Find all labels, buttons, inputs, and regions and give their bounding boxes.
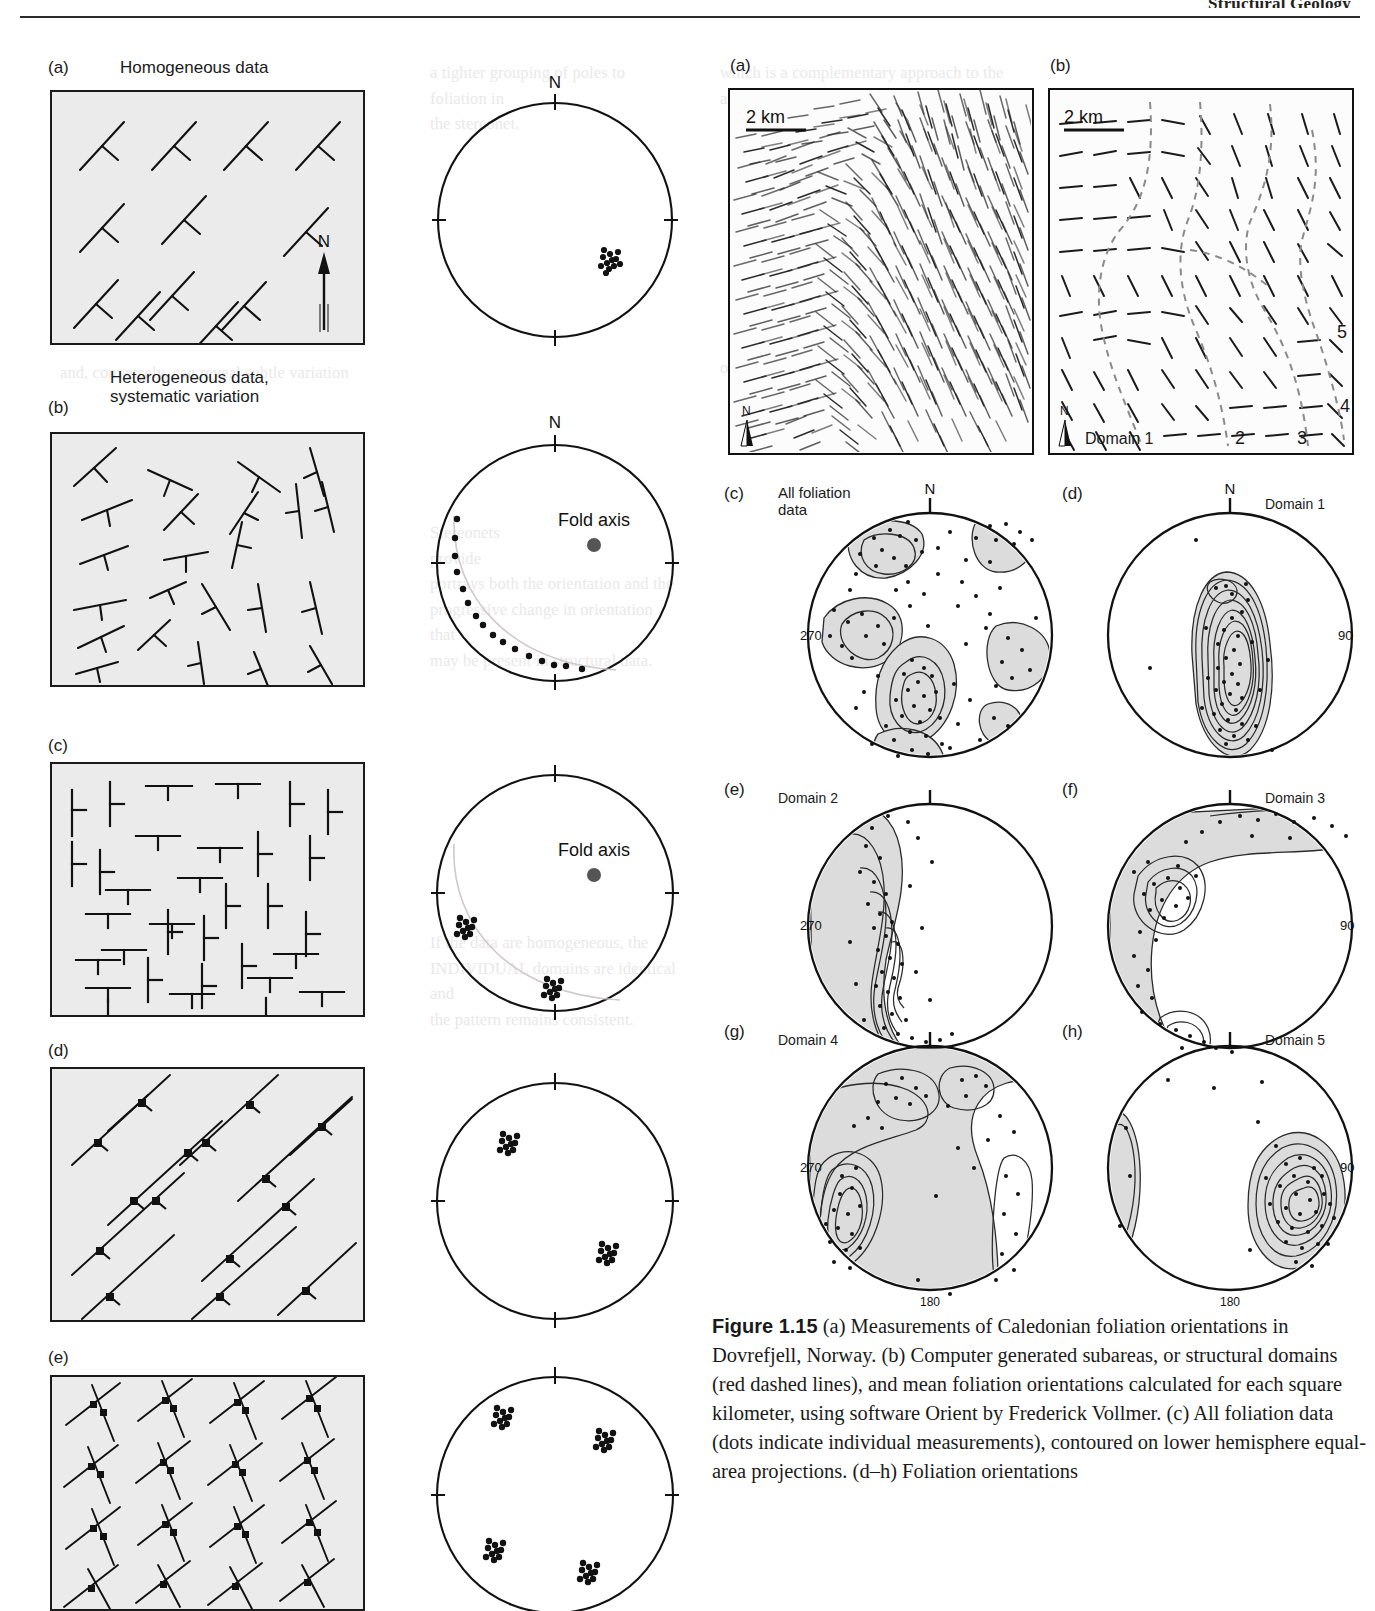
right-stereo-label-f: (f) (1062, 780, 1078, 800)
figure-number: Figure 1.15 (712, 1315, 818, 1337)
stereo-g-west-label: 270 (800, 1160, 822, 1175)
stereonet-b-north: N (549, 413, 561, 432)
pole-girdle-b (452, 516, 585, 672)
caledonian-foliation-map: 2 km N (728, 88, 1034, 455)
running-head: Structural Geology (1208, 0, 1351, 8)
foliation-map-c (50, 762, 365, 1017)
right-stereo-label-h: (h) (1062, 1022, 1083, 1042)
foliation-symbols-e (52, 1377, 363, 1609)
stereo-d-north: N (1225, 480, 1236, 497)
left-panel-label-d: (d) (48, 1041, 69, 1061)
north-arrow-map-a: N (741, 404, 753, 446)
svg-text:2 km: 2 km (746, 107, 785, 127)
pole-cluster-e-4 (577, 1560, 600, 1585)
left-panel-title-b: Heterogeneous data, systematic variation (110, 368, 269, 406)
stereo-h-east-label: 90 (1340, 1160, 1354, 1175)
map-a-foliation-ticks: 2 km N (730, 90, 1031, 452)
stereo-d-east-label: 90 (1338, 628, 1352, 643)
foliation-map-e (50, 1375, 365, 1611)
stereo-f-east-label: 90 (1340, 918, 1354, 933)
fold-axis-label-b: Fold axis (558, 510, 630, 530)
left-panel-title-a: Homogeneous data (120, 58, 268, 77)
stereonet-domain-1: N (1090, 478, 1360, 768)
north-arrow-a: N (318, 232, 330, 332)
foliation-symbols-c (52, 764, 363, 1015)
fold-axis-dot-b (587, 538, 601, 552)
svg-text:2 km: 2 km (1064, 107, 1103, 127)
foliation-symbols-d (52, 1069, 363, 1320)
map-b-domain-1-label: Domain 1 (1085, 430, 1153, 448)
foliation-map-d (50, 1067, 365, 1322)
svg-text:N: N (742, 404, 751, 418)
stereo-h-south-label: 180 (1220, 1295, 1240, 1309)
figure-caption-text: (a) Measurements of Caledonian foliation… (712, 1315, 1366, 1482)
pole-cluster-d-1 (497, 1131, 520, 1156)
foliation-symbols-b (52, 434, 363, 685)
right-stereo-label-g: (g) (724, 1022, 745, 1042)
header-rule (20, 16, 1360, 18)
stereonet-e (430, 1348, 680, 1611)
right-stereo-label-d: (d) (1062, 484, 1083, 504)
svg-text:N: N (1060, 404, 1069, 418)
left-panel-label-a: (a) (48, 58, 69, 78)
contour-shading-c (822, 519, 1050, 787)
stereonet-d (430, 1046, 680, 1322)
stereonet-all-foliation-data: N (790, 478, 1060, 768)
north-arrow-map-b: N (1059, 404, 1071, 446)
scale-bar-map-b: 2 km (1064, 107, 1124, 130)
foliation-map-b (50, 432, 365, 687)
map-b-domain-number-4: 4 (1340, 396, 1350, 417)
right-map-label-b: (b) (1050, 56, 1071, 76)
pole-cluster-d-2 (596, 1241, 619, 1266)
dip-ticks-e (88, 1395, 321, 1592)
pole-cluster-a (598, 247, 623, 276)
stereo-e-west-label: 270 (800, 918, 822, 933)
textbook-page: Structural Geology a tighter grouping of… (0, 0, 1375, 1611)
right-stereo-label-e: (e) (724, 780, 745, 800)
fold-axis-dot-c (587, 868, 601, 882)
stereo-c-north: N (925, 480, 936, 497)
map-b-domain-number-3: 3 (1297, 428, 1307, 449)
stereonet-a: N (430, 70, 680, 340)
stereo-c-west-label: 270 (800, 628, 822, 643)
map-b-domain-number-2: 2 (1235, 428, 1245, 449)
left-panel-label-e: (e) (48, 1348, 69, 1368)
right-stereo-label-c: (c) (724, 484, 744, 504)
pole-cluster-e-3 (483, 1538, 506, 1563)
fold-axis-label-c: Fold axis (558, 840, 630, 860)
stereo-g-south-label: 180 (920, 1295, 940, 1309)
foliation-map-a: N (50, 90, 365, 345)
stereonet-c: Fold axis (430, 738, 680, 1014)
figure-caption: Figure 1.15 (a) Measurements of Caledoni… (712, 1312, 1372, 1486)
pole-cluster-c-1 (454, 915, 477, 940)
pole-cluster-e-2 (593, 1428, 616, 1453)
svg-text:N: N (318, 232, 330, 251)
right-map-label-a: (a) (730, 56, 751, 76)
structural-domains-map: 2 km N (1048, 88, 1354, 455)
stereonet-a-north: N (549, 73, 561, 92)
stereonet-b: N Fold axis (430, 408, 680, 684)
pole-cluster-c-2 (541, 976, 564, 1001)
stereonet-domain-5: 90 180 (1090, 1018, 1360, 1308)
contour-shading-h (1106, 1112, 1345, 1270)
scale-bar-map-a: 2 km (746, 107, 806, 130)
map-b-domain-number-5: 5 (1337, 322, 1347, 343)
foliation-symbols-a: N (52, 92, 363, 343)
stereonet-domain-4: 270 180 (790, 1018, 1060, 1308)
left-panel-label-c: (c) (48, 736, 68, 756)
left-panel-label-b: (b) (48, 398, 69, 418)
pole-cluster-e-1 (491, 1405, 514, 1430)
map-b-mean-foliation: 2 km N (1050, 90, 1351, 452)
